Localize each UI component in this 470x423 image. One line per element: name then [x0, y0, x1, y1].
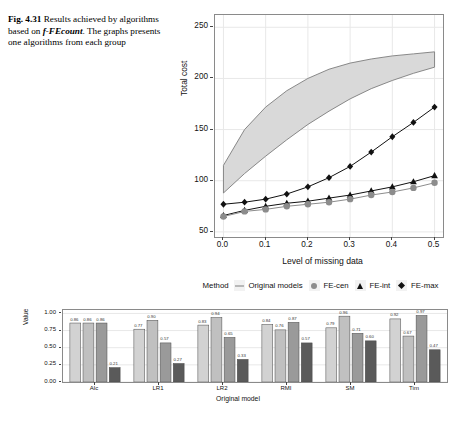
bar-value-label: 0.57 [156, 336, 174, 341]
bar-chart-y-axis-label: Value [22, 309, 29, 325]
figure-number: Fig. 4.31 [8, 14, 41, 24]
bar-value-label: 0.33 [233, 353, 251, 358]
line-chart-svg [215, 15, 443, 237]
legend-item-original-models[interactable]: Original models [234, 280, 303, 291]
bar-value-label: 0.84 [257, 318, 275, 323]
line-chart-x-tick-1: 0.1 [253, 240, 277, 249]
line-chart-y-tickmark-0 [210, 231, 213, 232]
bar-chart: Value 0.000.250.500.751.00 0.860.860.860… [22, 303, 454, 415]
line-chart: Total cost 50100150200250 0.00.10.20.30.… [180, 8, 465, 300]
bar-chart-x-tick-1: LR1 [138, 385, 178, 391]
line-chart-x-tick-2: 0.2 [295, 240, 319, 249]
line-chart-x-tick-4: 0.4 [379, 240, 403, 249]
line-chart-legend: Method Original models FE-cen FE-int FE-… [180, 280, 465, 291]
line-chart-x-tick-5: 0.5 [422, 240, 446, 249]
bar-chart-y-tickmark-0 [59, 381, 62, 382]
line-chart-y-tick-3: 200 [182, 72, 208, 81]
line-chart-x-tick-3: 0.3 [337, 240, 361, 249]
bar-chart-y-tickmark-4 [59, 312, 62, 313]
line-chart-plot-area [214, 14, 444, 238]
bar-value-label: 0.94 [206, 311, 224, 316]
caption-italic-term: f-FEcount [43, 26, 83, 36]
bar-value-label: 0.60 [361, 334, 379, 339]
diamond-marker-icon [396, 280, 407, 291]
bar-chart-y-tick-4: 1.00 [36, 309, 56, 315]
line-chart-y-tickmark-2 [210, 129, 213, 130]
bar-chart-y-tickmark-2 [59, 347, 62, 348]
circle-marker-icon [309, 280, 320, 291]
legend-label-1: FE-cen [323, 281, 348, 290]
triangle-marker-icon [355, 280, 366, 291]
line-chart-x-axis-label: Level of missing data [180, 256, 465, 266]
bar-value-label: 0.87 [284, 316, 302, 321]
bar-chart-x-tick-3: RMI [266, 385, 306, 391]
bar-chart-x-tick-4: SM [330, 385, 370, 391]
bar-value-label: 0.83 [193, 319, 211, 324]
bar-chart-x-axis-label: Original model [22, 395, 454, 402]
bar-value-label: 0.79 [321, 321, 339, 326]
bar-chart-y-tick-2: 0.50 [36, 343, 56, 349]
line-chart-y-tick-0: 50 [182, 226, 208, 235]
line-chart-y-tickmark-1 [210, 180, 213, 181]
bar-value-label: 0.65 [220, 331, 238, 336]
bar-value-label: 0.57 [297, 336, 315, 341]
line-chart-y-tickmark-4 [210, 26, 213, 27]
bar-value-label: 0.71 [348, 327, 366, 332]
bar-value-label: 0.97 [412, 309, 430, 314]
bar-chart-svg [63, 310, 447, 382]
bar-chart-x-tick-5: Tim [394, 385, 434, 391]
line-chart-y-tick-1: 100 [182, 175, 208, 184]
bar-value-label: 0.86 [92, 317, 110, 322]
legend-item-fe-cen[interactable]: FE-cen [309, 280, 349, 291]
legend-label-3: FE-max [411, 281, 438, 290]
bar-value-label: 0.47 [425, 343, 443, 348]
caption-line-5: each group [85, 37, 126, 47]
bar-value-label: 0.76 [270, 323, 288, 328]
bar-chart-x-tick-2: LR2 [202, 385, 242, 391]
bar-value-label: 0.21 [105, 361, 123, 366]
figure-caption: Fig. 4.31 Results achieved by algorithms… [8, 14, 168, 49]
bar-value-label: 0.67 [398, 330, 416, 335]
bar-value-label: 0.96 [334, 310, 352, 315]
legend-item-fe-max[interactable]: FE-max [396, 280, 438, 291]
line-chart-x-tick-0: 0.0 [210, 240, 234, 249]
bar-chart-y-tickmark-3 [59, 330, 62, 331]
legend-item-fe-int[interactable]: FE-int [355, 280, 390, 291]
legend-label-2: FE-int [369, 281, 390, 290]
bar-value-label: 0.90 [142, 314, 160, 319]
legend-label-0: Original models [248, 281, 302, 290]
line-chart-y-tick-2: 150 [182, 124, 208, 133]
caption-line-1: Results achieved [44, 14, 106, 24]
line-chart-y-tickmark-3 [210, 77, 213, 78]
bar-chart-y-tick-3: 0.75 [36, 326, 56, 332]
bar-chart-y-tickmark-1 [59, 364, 62, 365]
bar-value-label: 0.77 [129, 323, 147, 328]
bar-chart-x-tick-0: Alc [74, 385, 114, 391]
bar-value-label: 0.27 [169, 357, 187, 362]
legend-title: Method [203, 281, 229, 290]
bar-chart-y-tick-1: 0.25 [36, 360, 56, 366]
bar-chart-plot-area [62, 309, 448, 383]
caption-line-3: . The graphs [83, 26, 129, 36]
bar-value-label: 0.92 [385, 312, 403, 317]
line-key-icon [234, 280, 245, 291]
line-chart-y-tick-4: 250 [182, 21, 208, 30]
bar-chart-y-tick-0: 0.00 [36, 378, 56, 384]
